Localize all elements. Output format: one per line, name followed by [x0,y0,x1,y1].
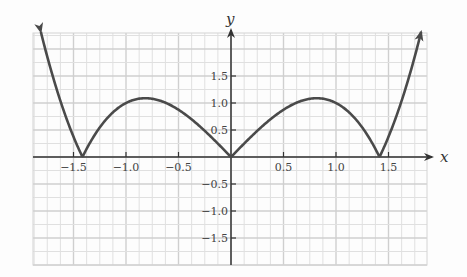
x-tick-label: −0.5 [165,161,192,174]
axes [33,30,432,265]
x-axis-label: x [440,148,449,166]
x-tick-label: 1.5 [380,161,398,174]
y-axis-label: y [225,10,235,28]
y-tick-label: −1.5 [201,232,228,245]
x-tick-label: 0.5 [275,161,293,174]
x-tick-label: −1.5 [60,161,87,174]
y-tick-label: 1.5 [211,70,229,83]
grid [33,33,427,265]
x-tick-label: −1.0 [113,161,140,174]
function-graph: −1.5−1.0−0.50.51.01.51.51.00.5−0.5−1.0−1… [0,0,467,277]
y-tick-label: 0.5 [211,124,229,137]
grid-border [33,33,427,265]
y-tick-label: 1.0 [211,97,229,110]
x-tick-label: 1.0 [327,161,345,174]
y-tick-label: −1.0 [201,205,228,218]
y-tick-label: −0.5 [201,178,228,191]
